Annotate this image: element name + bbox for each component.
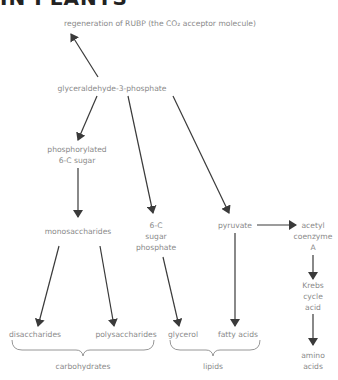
arrow-mono-to-poly: [100, 246, 114, 326]
arrow-sugar6c-to-glycerol: [163, 257, 179, 326]
node-pyruvate: pyruvate: [218, 220, 252, 231]
arrow-g3p-to-sugar6c: [128, 96, 153, 213]
node-6c-sugar-phosphate: 6-C sugar phosphate: [136, 220, 176, 253]
node-monosaccharides: monosaccharides: [45, 226, 112, 237]
node-rubp: regeneration of RUBP (the CO₂ acceptor m…: [64, 18, 256, 29]
pathway-arrows: [0, 0, 338, 380]
node-phosphorylated-6c-sugar: phosphorylated 6-C sugar: [47, 144, 106, 166]
arrow-g3p-to-rubp: [71, 34, 98, 77]
arrow-mono-to-di: [38, 246, 59, 326]
arrow-g3p-to-phos6c: [78, 96, 97, 140]
node-disaccharides: disaccharides: [9, 329, 61, 340]
node-polysaccharides: polysaccharides: [95, 329, 156, 340]
brace-carbohydrates: [12, 340, 154, 356]
node-acetyl-coenzyme-a: acetyl coenzyme A: [294, 220, 333, 253]
group-carbohydrates: carbohydrates: [56, 361, 111, 372]
node-amino-acids: amino acids: [301, 350, 325, 372]
node-krebs-cycle-acid: Krebs cycle acid: [302, 280, 323, 313]
group-lipids: lipids: [203, 361, 223, 372]
node-glycerol: glycerol: [168, 329, 198, 340]
brace-lipids: [170, 340, 260, 356]
node-g3p: glyceraldehyde-3-phosphate: [58, 83, 167, 94]
arrow-g3p-to-pyruvate: [173, 96, 229, 213]
node-fatty-acids: fatty acids: [218, 329, 258, 340]
